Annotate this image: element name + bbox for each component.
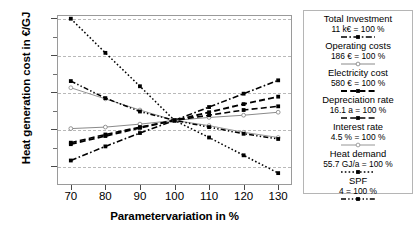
- data-lines: [57, 15, 292, 185]
- legend-entry-value: 186 € = 100 %: [304, 51, 412, 61]
- series-marker: [276, 171, 280, 175]
- series-marker: [173, 119, 177, 123]
- y-tick-mark: [51, 166, 57, 167]
- legend-entry-value: 4 = 100 %: [304, 186, 412, 196]
- legend-entry-value: 4.5 % = 100 %: [304, 132, 412, 142]
- legend-entry-value: 55.7 GJ/a = 100 %: [304, 159, 412, 169]
- legend-entry-title: Electricity cost: [304, 67, 412, 78]
- series-marker: [138, 131, 142, 135]
- y-tick-mark: [51, 18, 57, 19]
- series-marker: [242, 153, 246, 157]
- series-marker: [69, 79, 73, 83]
- legend-entry-title: Depreciation rate: [304, 94, 412, 105]
- legend-entry-title: SPF: [304, 175, 412, 186]
- series-marker: [69, 141, 73, 145]
- series-marker: [242, 92, 246, 96]
- series-marker: [242, 102, 246, 106]
- y-tick-minor: [53, 111, 57, 112]
- series-marker: [69, 17, 73, 21]
- series-marker: [276, 78, 280, 82]
- series-marker: [103, 96, 107, 100]
- legend-entry-value: 16.1 a = 100 %: [304, 105, 412, 115]
- chart-screenshot: Heat generation cost in €/GJ Parameterva…: [0, 0, 418, 241]
- series-marker: [276, 137, 280, 141]
- legend-entry-value: 580 € = 100 %: [304, 78, 412, 88]
- y-tick-minor: [53, 148, 57, 149]
- series-line: [71, 88, 278, 138]
- series-marker: [138, 84, 142, 88]
- series-marker: [138, 110, 142, 114]
- series-marker: [242, 108, 246, 112]
- legend-entry: Electricity cost580 € = 100 %: [304, 67, 412, 94]
- series-marker: [103, 133, 107, 137]
- series-marker: [207, 125, 211, 129]
- series-marker: [69, 86, 73, 90]
- series-marker: [103, 51, 107, 55]
- x-axis-title: Parametervariation in %: [57, 210, 292, 222]
- legend-line-sample: [304, 196, 412, 202]
- legend-entry: Operating costs186 € = 100 %: [304, 40, 412, 67]
- legend-entry-title: Operating costs: [304, 40, 412, 51]
- series-marker: [242, 113, 246, 117]
- series-marker: [242, 132, 246, 136]
- y-tick-mark: [51, 92, 57, 93]
- series-marker: [103, 125, 107, 129]
- chart-legend: Total Investment11 k€ = 100 %Operating c…: [303, 10, 413, 194]
- series-line: [71, 19, 278, 173]
- legend-entry-value: 11 k€ = 100 %: [304, 24, 412, 34]
- x-tick-label: 130: [258, 190, 298, 202]
- series-marker: [276, 110, 280, 114]
- legend-entry: Total Investment11 k€ = 100 %: [304, 13, 412, 40]
- series-marker: [276, 95, 280, 99]
- series-marker: [69, 159, 73, 163]
- legend-entry: Heat demand55.7 GJ/a = 100 %: [304, 148, 412, 175]
- legend-entry-title: Heat demand: [304, 148, 412, 159]
- y-tick-minor: [53, 74, 57, 75]
- series-marker: [103, 144, 107, 148]
- legend-entry-title: Interest rate: [304, 121, 412, 132]
- y-axis-title: Heat generation cost in €/GJ: [20, 1, 32, 176]
- y-tick-mark: [51, 55, 57, 56]
- legend-entry: SPF4 = 100 %: [304, 175, 412, 202]
- series-marker: [207, 113, 211, 117]
- legend-entry: Interest rate4.5 % = 100 %: [304, 121, 412, 148]
- chart-plot-area: Heat generation cost in €/GJ Parameterva…: [0, 0, 298, 241]
- y-tick-mark: [51, 129, 57, 130]
- series-marker: [69, 127, 73, 131]
- series-marker: [207, 105, 211, 109]
- legend-entry-title: Total Investment: [304, 13, 412, 24]
- legend-entry: Depreciation rate16.1 a = 100 %: [304, 94, 412, 121]
- y-tick-minor: [53, 37, 57, 38]
- series-marker: [276, 104, 280, 108]
- series-marker: [138, 125, 142, 129]
- series-marker: [207, 136, 211, 140]
